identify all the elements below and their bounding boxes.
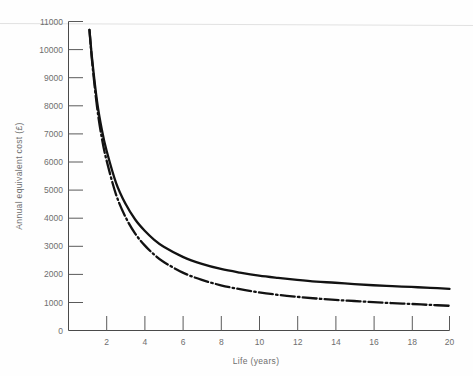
upper-cost-curve <box>89 30 449 289</box>
y-tick-label: 9000 <box>44 73 63 83</box>
x-tick-label: 8 <box>219 337 224 347</box>
y-tick-labels: 11000 10000 9000 8000 7000 6000 5000 400… <box>39 17 63 336</box>
x-tick-label: 20 <box>445 337 455 347</box>
x-tick-label: 16 <box>369 337 379 347</box>
x-tick-label: 10 <box>255 337 265 347</box>
y-tick-label: 1000 <box>44 298 63 308</box>
x-tick-marks <box>107 316 450 331</box>
x-tick-label: 14 <box>331 337 341 347</box>
x-tick-label: 4 <box>143 337 148 347</box>
scan-artifact-line <box>0 24 473 26</box>
x-tick-labels: 2 4 6 8 10 12 14 16 18 20 <box>104 337 454 347</box>
y-tick-label: 10000 <box>39 45 63 55</box>
y-tick-marks <box>69 22 84 303</box>
y-tick-label: 8000 <box>44 101 63 111</box>
x-tick-label: 12 <box>293 337 303 347</box>
y-tick-label: 7000 <box>44 129 63 139</box>
lower-cost-curve <box>89 30 449 306</box>
y-tick-label: 2000 <box>44 269 63 279</box>
chart-figure: 11000 10000 9000 8000 7000 6000 5000 400… <box>0 0 473 376</box>
axis-spines <box>69 22 450 331</box>
x-tick-label: 18 <box>408 337 418 347</box>
x-tick-label: 6 <box>181 337 186 347</box>
y-tick-label: 0 <box>58 326 63 336</box>
x-axis-title: Life (years) <box>233 356 280 366</box>
y-axis-title: Annual equivalent cost (£) <box>14 122 24 229</box>
annual-equivalent-cost-chart: 11000 10000 9000 8000 7000 6000 5000 400… <box>0 0 473 376</box>
y-tick-label: 5000 <box>44 185 63 195</box>
y-tick-label: 11000 <box>40 17 63 27</box>
y-tick-label: 6000 <box>44 157 63 167</box>
y-tick-label: 3000 <box>44 241 63 251</box>
x-tick-label: 2 <box>104 337 109 347</box>
y-tick-label: 4000 <box>44 213 63 223</box>
